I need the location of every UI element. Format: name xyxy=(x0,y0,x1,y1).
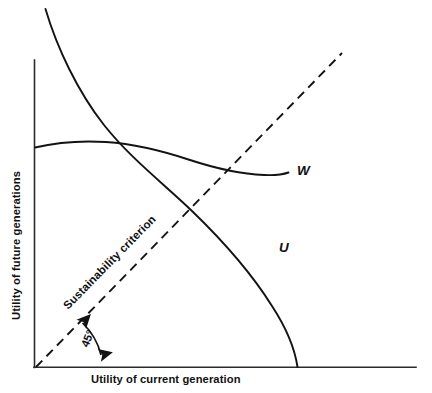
chart-canvas: Utility of current generation Utility of… xyxy=(0,0,432,393)
sustainability-criterion-line xyxy=(36,53,342,367)
x-axis-label: Utility of current generation xyxy=(91,373,241,385)
sustainability-criterion-label: Sustainability criterion xyxy=(61,213,158,312)
y-axis-label: Utility of future generations xyxy=(10,171,22,320)
curve-u xyxy=(46,9,298,367)
figure-container: Utility of current generation Utility of… xyxy=(0,0,432,393)
angle-label-45: 45° xyxy=(79,328,97,349)
curve-w-label: W xyxy=(297,163,311,178)
curve-u-label: U xyxy=(279,240,290,255)
